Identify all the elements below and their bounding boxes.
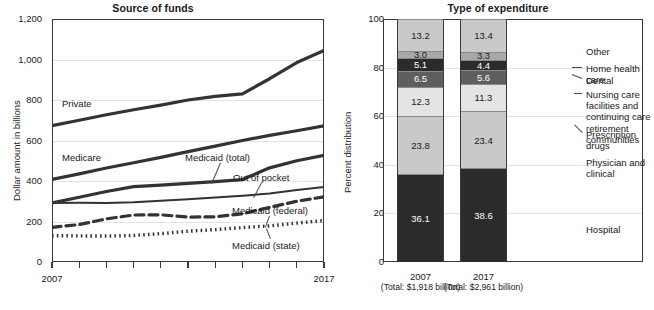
x-tickmark [242, 262, 243, 268]
series-label-medicare: Medicare [62, 152, 101, 163]
series-label-medicaid-total: Medicaid (total) [185, 152, 250, 163]
y-tick-label: 100 [348, 13, 384, 24]
x-tick-label: 2007 [32, 273, 72, 284]
bar-segment: 5.1 [398, 58, 443, 70]
category-total-label: (Total: $2,961 billion) [441, 283, 527, 293]
leader-line [574, 93, 582, 94]
y-tick-label: 600 [2, 135, 42, 146]
legend-label-nursing-care-facilities-and-continuing-car: Nursing care facilities and continuing c… [586, 89, 654, 145]
legend-label-other: Other [586, 46, 610, 57]
x-tickmark [160, 262, 161, 268]
series-label-medicaid-federal: Medicaid (federal) [232, 205, 308, 216]
bar-segment: 12.3 [398, 87, 443, 117]
y-tick-label: 80 [348, 62, 384, 73]
segment-value-label: 3.3 [477, 52, 490, 60]
x-tickmark [296, 262, 297, 268]
line-series-group [52, 19, 324, 262]
bar-segment: 11.3 [461, 84, 506, 111]
bar-segment: 13.4 [461, 19, 506, 52]
leader-line [572, 67, 582, 68]
y-tick-label: 200 [2, 216, 42, 227]
stacked-bar: 36.123.812.36.55.13.013.2 [397, 19, 444, 262]
series-label-private: Private [62, 98, 92, 109]
source-of-funds-chart: Source of funds Dollar amount in billion… [0, 0, 330, 310]
segment-value-label: 23.4 [474, 136, 493, 146]
bar-segment: 3.0 [398, 51, 443, 58]
segment-value-label: 23.8 [411, 141, 430, 151]
series-line [52, 50, 324, 125]
x-tickmark [106, 262, 107, 268]
legend-label-physician-and-clinical: Physician and clinical [586, 157, 654, 179]
y-tick-label: 40 [348, 159, 384, 170]
segment-value-label: 11.3 [475, 93, 493, 103]
x-tickmark [323, 262, 324, 268]
category-label: 2017 [441, 271, 527, 282]
y-tick-label: 800 [2, 94, 42, 105]
y-tick-label: 0 [348, 256, 384, 267]
segment-value-label: 38.6 [474, 211, 493, 221]
y-tick-label: 60 [348, 110, 384, 121]
segment-value-label: 5.6 [477, 73, 490, 83]
y-tick-label: 0 [2, 256, 42, 267]
y-tick-label: 20 [348, 207, 384, 218]
bar-segment: 36.1 [398, 174, 443, 262]
chart-title-left: Source of funds [0, 2, 318, 14]
y-axis-label-right: Percent distribution [342, 111, 353, 192]
legend-label-hospital: Hospital [586, 224, 620, 235]
bar-segment: 38.6 [461, 168, 506, 262]
bar-segment: 13.2 [398, 19, 443, 51]
x-tickmark [79, 262, 80, 268]
bar-segment: 3.3 [461, 52, 506, 60]
segment-value-label: 3.0 [414, 51, 427, 58]
bar-segment: 23.8 [398, 116, 443, 174]
y-tick-label: 1,200 [2, 13, 42, 24]
legend-label-home-health-care: Home health care [586, 63, 654, 85]
x-tickmark [269, 262, 270, 268]
bar-segment: 23.4 [461, 111, 506, 168]
stacked-bar: 38.623.411.35.64.43.313.4 [460, 19, 507, 262]
x-tickmark [133, 262, 134, 268]
x-tickmark [51, 262, 52, 268]
bar-segment: 4.4 [461, 60, 506, 71]
x-tickmark [187, 262, 188, 268]
y-tick-label: 1,000 [2, 54, 42, 65]
segment-value-label: 4.4 [477, 61, 490, 71]
type-of-expenditure-chart: Type of expenditure Percent distribution… [330, 0, 654, 310]
segment-value-label: 13.2 [411, 31, 430, 41]
y-tick-label: 400 [2, 175, 42, 186]
segment-value-label: 12.3 [411, 97, 430, 107]
segment-value-label: 5.1 [414, 60, 427, 70]
segment-value-label: 13.4 [474, 31, 493, 41]
segment-value-label: 36.1 [411, 214, 430, 224]
bar-segment: 5.6 [461, 70, 506, 84]
segment-value-label: 6.5 [414, 74, 427, 84]
series-label-medicaid-state: Medicaid (state) [232, 240, 300, 251]
bar-segment: 6.5 [398, 71, 443, 87]
series-label-out-of-pocket: Out of pocket [233, 172, 290, 183]
x-tickmark [215, 262, 216, 268]
